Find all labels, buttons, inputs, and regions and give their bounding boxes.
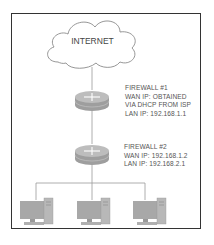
internet-label: INTERNET (47, 36, 138, 46)
firewall-1-title: FIREWALL #1 (125, 84, 191, 93)
firewall-2-router-icon (75, 145, 109, 165)
firewall-2-title: FIREWALL #2 (124, 143, 188, 152)
firewall-1-router-icon (75, 91, 109, 111)
desktop-computer-icon-3 (133, 198, 166, 225)
firewall-2-info: FIREWALL #2 WAN IP: 192.168.1.2 LAN IP: … (124, 143, 188, 169)
desktop-computer-icon-2 (77, 198, 110, 225)
firewall-1-lan: LAN IP: 192.168.1.1 (125, 110, 191, 119)
firewall-2-lan: LAN IP: 192.168.2.1 (124, 160, 188, 169)
firewall-1-wan-detail: VIA DHCP FROM ISP (125, 101, 191, 110)
firewall-1-wan: WAN IP: OBTAINED (125, 93, 191, 102)
firewall-1-info: FIREWALL #1 WAN IP: OBTAINED VIA DHCP FR… (125, 84, 191, 118)
firewall-2-wan: WAN IP: 192.168.1.2 (124, 152, 188, 161)
desktop-computer-icon-1 (20, 198, 53, 225)
